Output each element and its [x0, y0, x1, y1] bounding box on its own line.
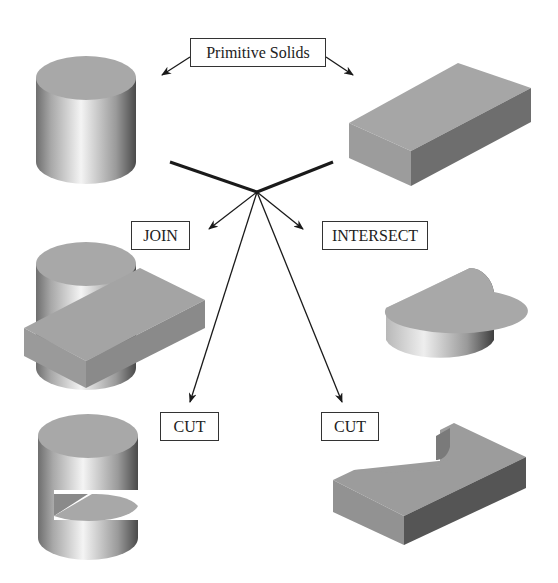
intersect-result-shape	[385, 268, 528, 358]
cylinder-primitive	[36, 56, 136, 184]
cut-cylinder-shape	[38, 414, 138, 560]
intersect-label: INTERSECT	[322, 221, 428, 250]
box-primitive	[349, 63, 531, 186]
primitive-solids-label: Primitive Solids	[190, 38, 326, 67]
cut-box-shape	[333, 423, 526, 545]
csg-diagram	[0, 0, 558, 583]
cut-right-label: CUT	[321, 412, 379, 441]
cut-left-label: CUT	[160, 412, 219, 441]
join-result-shape	[24, 242, 205, 390]
join-label: JOIN	[131, 221, 190, 250]
